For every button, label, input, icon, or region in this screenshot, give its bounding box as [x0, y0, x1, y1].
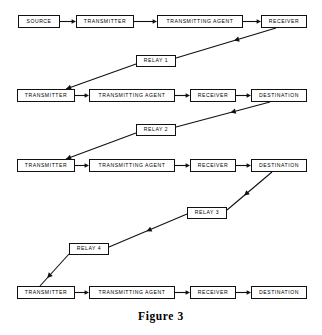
connector-link-relay2-to-transmitter3 — [66, 133, 136, 160]
arrow-a-r4-3 — [236, 290, 251, 295]
arrow-a-r3-2 — [175, 163, 190, 168]
relay-box-relay-2: RELAY 2 — [136, 124, 176, 136]
node-r3-receiver: RECEIVER — [190, 159, 236, 172]
node-r2-transmitter: TRANSMITTER — [17, 89, 75, 102]
connector-link-relay4-to-transmitter4 — [40, 254, 69, 286]
arrow-a-r1-1 — [60, 19, 76, 24]
relay-box-relay-4: RELAY 4 — [69, 243, 109, 255]
node-r4-transmitter: TRANSMITTER — [17, 286, 75, 299]
figure-3-diagram: SOURCETRANSMITTERTRANSMITTING AGENTRECEI… — [0, 0, 322, 335]
node-r1-transmitter: TRANSMITTER — [76, 15, 134, 28]
connector-link-receiver1-to-relay1 — [176, 28, 276, 58]
relay-box-relay-1: RELAY 1 — [136, 55, 176, 67]
arrow-a-r2-1 — [75, 93, 89, 98]
connector-link-relay1-to-transmitter2 — [66, 64, 136, 90]
arrow-a-r3-1 — [75, 163, 89, 168]
node-r4-transmitting-agent: TRANSMITTING AGENT — [89, 286, 175, 299]
arrow-a-r2-2 — [175, 93, 190, 98]
node-r1-source: SOURCE — [18, 15, 60, 28]
arrow-a-r1-3 — [243, 19, 261, 24]
relay-box-relay-3: RELAY 3 — [187, 207, 227, 219]
node-r2-destination: DESTINATION — [251, 89, 307, 102]
node-r1-transmitting-agent: TRANSMITTING AGENT — [157, 15, 243, 28]
node-r2-receiver: RECEIVER — [190, 89, 236, 102]
connector-link-destination2-to-relay2 — [176, 102, 270, 127]
connector-link-relay3-to-relay4 — [109, 214, 187, 247]
node-r3-transmitter: TRANSMITTER — [17, 159, 75, 172]
arrow-a-r1-2 — [134, 19, 157, 24]
arrow-a-r3-3 — [236, 163, 251, 168]
node-r1-receiver: RECEIVER — [261, 15, 307, 28]
node-r3-transmitting-agent: TRANSMITTING AGENT — [89, 159, 175, 172]
arrow-a-r4-1 — [75, 290, 89, 295]
connector-link-destination3-to-relay3 — [227, 172, 272, 210]
node-r3-destination: DESTINATION — [251, 159, 307, 172]
arrow-a-r2-3 — [236, 93, 251, 98]
node-r2-transmitting-agent: TRANSMITTING AGENT — [89, 89, 175, 102]
node-r4-destination: DESTINATION — [251, 286, 307, 299]
node-r4-receiver: RECEIVER — [190, 286, 236, 299]
figure-caption: Figure 3 — [0, 310, 322, 322]
arrow-a-r4-2 — [175, 290, 190, 295]
